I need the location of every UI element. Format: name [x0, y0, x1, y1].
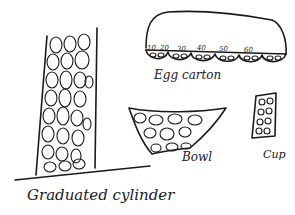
carton-number: 10: [147, 44, 156, 52]
cylinder-label: Graduated cylinder: [27, 186, 175, 204]
bowl-label: Bowl: [181, 150, 212, 164]
carton-number: 60: [244, 46, 253, 54]
carton-number: 20: [159, 44, 169, 52]
cup: [252, 93, 276, 138]
carton-number: 30: [177, 45, 186, 53]
egg-carton: 10 20 30 40 50 60: [146, 11, 286, 61]
graduated-cylinder: [15, 28, 150, 180]
cup-label: Cup: [263, 148, 286, 161]
egg-carton-label: Egg carton: [153, 68, 221, 82]
sketch-canvas: Graduated cylinder 10 20 30 40 50 60 Egg…: [0, 0, 295, 215]
carton-number: 50: [219, 45, 228, 53]
bowl: [129, 108, 226, 154]
carton-number: 40: [196, 44, 206, 52]
